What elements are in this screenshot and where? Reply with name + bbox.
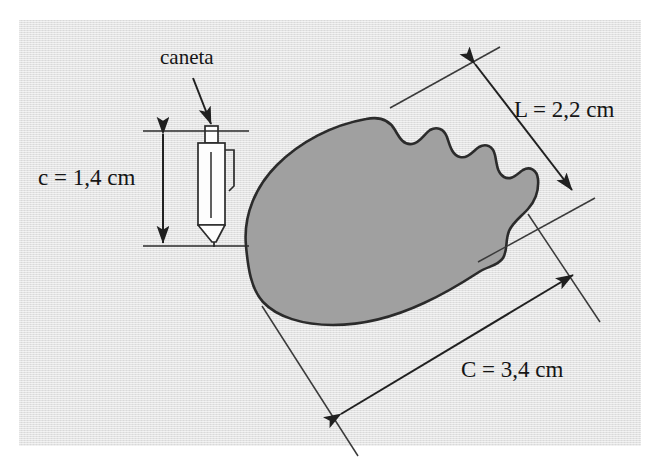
caneta-label: caneta	[160, 47, 214, 68]
pen-icon	[198, 126, 234, 247]
figure-root: caneta c = 1,4 cm L = 2,2 cm C = 3,4 cm	[0, 0, 671, 468]
specimen-outline	[246, 118, 539, 325]
object-length-label: C = 3,4 cm	[461, 358, 563, 381]
figure-drawing	[0, 0, 671, 468]
caneta-callout-arrow	[193, 78, 211, 124]
pen-length-label: c = 1,4 cm	[38, 166, 135, 189]
dimension-c	[143, 131, 249, 246]
object-width-label: L = 2,2 cm	[514, 98, 614, 121]
specimen-shape	[246, 118, 539, 325]
